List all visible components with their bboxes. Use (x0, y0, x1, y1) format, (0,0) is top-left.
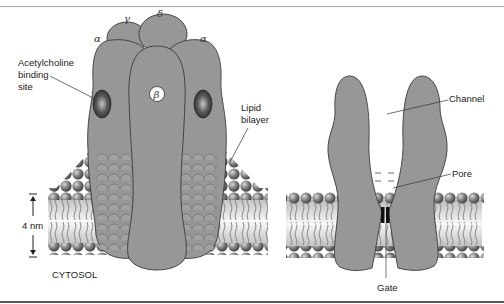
beta-subunit (128, 46, 187, 270)
lipid-leader (230, 128, 248, 162)
binding-site-label-1: Acetylcholine (18, 57, 74, 68)
cytosol-label: CYTOSOL (52, 269, 97, 280)
beta-label: β (153, 89, 160, 100)
lipid-label-2: bilayer (241, 114, 269, 125)
gamma-label: γ (124, 13, 130, 24)
gate-bar-right (386, 207, 390, 223)
channel-label: Channel (449, 93, 484, 104)
binding-site-left (93, 90, 111, 118)
binding-site-label-2: binding (18, 69, 49, 80)
alpha-right-label: α (200, 33, 207, 44)
alpha-left-label: α (94, 33, 101, 44)
scale-label: 4 nm (22, 220, 43, 231)
binding-site-label-3: site (18, 81, 33, 92)
receptor-protein (88, 14, 227, 270)
lipid-label-1: Lipid (241, 102, 261, 113)
right-membrane (286, 192, 484, 258)
binding-site-leader (50, 76, 97, 100)
receptor-diagram: α γ δ α β Acetylcholine binding site Lip… (0, 0, 504, 304)
binding-site-right (194, 90, 212, 118)
gate-bar-left (381, 207, 385, 223)
gate-label: Gate (377, 282, 398, 293)
channel-wall-left (328, 76, 382, 271)
pore-label: Pore (452, 168, 472, 179)
delta-label: δ (157, 8, 163, 19)
